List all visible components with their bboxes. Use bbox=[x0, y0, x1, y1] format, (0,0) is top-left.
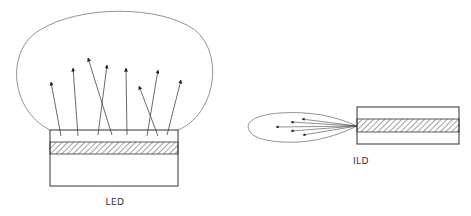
ild-label: ILD bbox=[353, 156, 369, 166]
led-emission-arrows bbox=[51, 58, 181, 136]
led-diagram: LED bbox=[17, 11, 213, 207]
led-label: LED bbox=[105, 197, 124, 207]
emission-pattern-diagram: LED ILD bbox=[0, 0, 471, 216]
ild-diagram: ILD bbox=[248, 107, 459, 166]
led-chip bbox=[50, 130, 178, 186]
led-active-layer bbox=[50, 142, 178, 154]
led-radiation-lobe bbox=[17, 11, 213, 130]
ild-active-layer bbox=[357, 119, 459, 132]
ild-chip bbox=[357, 107, 459, 144]
